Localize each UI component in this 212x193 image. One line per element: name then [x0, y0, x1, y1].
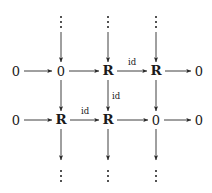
- dot: [107, 180, 109, 182]
- dot: [155, 180, 157, 182]
- node-r2-c2: R: [102, 113, 113, 127]
- dot: [155, 26, 157, 28]
- edge-label-r2-identity: id: [81, 107, 89, 116]
- node-r1-c0: 0: [12, 65, 20, 78]
- node-r2-c3: 0: [152, 114, 160, 127]
- node-r2-c0: 0: [12, 114, 20, 127]
- node-r1-c4: 0: [195, 65, 203, 78]
- vdots-top-col-1: [60, 13, 62, 31]
- commutative-diagram: 0 0 R R 0 0 R R 0 0 id id id: [0, 0, 212, 193]
- node-r1-c2: R: [102, 64, 113, 78]
- edge-label-r1-identity: id: [128, 58, 136, 67]
- dot: [60, 175, 62, 177]
- node-r1-c1: 0: [57, 65, 65, 78]
- vdots-bottom-col-1: [60, 167, 62, 185]
- dot: [107, 175, 109, 177]
- middle-vertical-arrows: [61, 80, 156, 111]
- node-r1-c3: R: [150, 64, 161, 78]
- diagram-arrows-layer: [0, 0, 212, 193]
- dot: [155, 175, 157, 177]
- dot: [107, 170, 109, 172]
- dot: [107, 26, 109, 28]
- vdots-bottom-col-3: [155, 167, 157, 185]
- dot: [60, 26, 62, 28]
- bottom-vertical-arrows: [61, 129, 156, 160]
- node-r2-c4: 0: [195, 114, 203, 127]
- dot: [155, 170, 157, 172]
- node-r2-c1: R: [55, 113, 66, 127]
- dot: [60, 180, 62, 182]
- dot: [155, 21, 157, 23]
- dot: [60, 16, 62, 18]
- dot: [155, 16, 157, 18]
- vdots-top-col-3: [155, 13, 157, 31]
- vdots-top-col-2: [107, 13, 109, 31]
- dot: [60, 170, 62, 172]
- top-vertical-arrows: [61, 32, 156, 62]
- dot: [60, 21, 62, 23]
- edge-label-vertical-identity: id: [112, 92, 120, 101]
- vdots-bottom-col-2: [107, 167, 109, 185]
- dot: [107, 21, 109, 23]
- dot: [107, 16, 109, 18]
